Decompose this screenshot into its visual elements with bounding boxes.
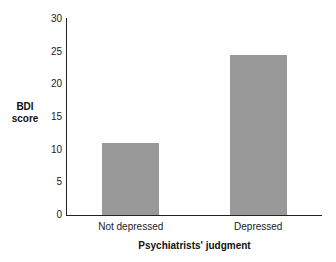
y-axis-tick-label: 25 bbox=[40, 47, 62, 57]
x-axis-category-labels: Not depressedDepressed bbox=[67, 221, 322, 235]
bar-chart-figure: BDI score 051015202530 Not depressedDepr… bbox=[0, 0, 336, 262]
y-axis-title: BDI score bbox=[6, 101, 44, 125]
plot-area bbox=[67, 19, 322, 215]
y-axis-tick-label: 5 bbox=[40, 177, 62, 187]
bar bbox=[230, 55, 287, 215]
y-axis-title-line-1: BDI bbox=[6, 101, 44, 113]
y-axis-tick-label: 0 bbox=[40, 210, 62, 220]
y-axis-tick-label: 30 bbox=[40, 14, 62, 24]
bar bbox=[102, 143, 159, 215]
y-axis-title-line-2: score bbox=[6, 113, 44, 125]
y-axis-tick-label: 10 bbox=[40, 145, 62, 155]
y-axis-tick-label: 15 bbox=[40, 112, 62, 122]
x-axis-category-label: Depressed bbox=[195, 221, 323, 233]
x-axis-title: Psychiatrists' judgment bbox=[67, 240, 322, 252]
x-axis-line bbox=[66, 215, 322, 216]
x-axis-category-label: Not depressed bbox=[67, 221, 195, 233]
y-axis-tick-label: 20 bbox=[40, 79, 62, 89]
y-axis-tick-labels: 051015202530 bbox=[40, 0, 62, 262]
